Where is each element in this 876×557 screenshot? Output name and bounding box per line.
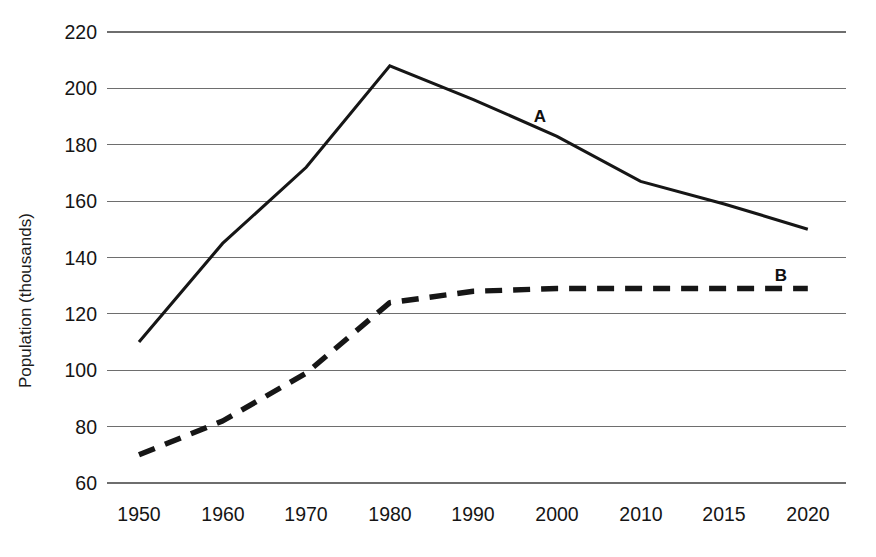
y-tick-label-60: 60	[75, 472, 97, 494]
y-tick-label-220: 220	[64, 21, 97, 43]
x-tick-label-2020: 2020	[786, 503, 830, 525]
series-b-label: B	[775, 266, 787, 285]
series-a-label: A	[534, 107, 546, 126]
x-tick-label-1990: 1990	[451, 503, 495, 525]
chart-canvas: 220 200 180 160 140 120 100 80 60 1950 1…	[0, 0, 876, 557]
series-line-a	[139, 66, 808, 342]
x-tick-label-2010: 2010	[619, 503, 663, 525]
y-axis-title-group: Population (thousands)	[16, 213, 35, 388]
y-tick-label-80: 80	[75, 416, 97, 438]
y-tick-label-140: 140	[64, 247, 97, 269]
y-tick-label-120: 120	[64, 303, 97, 325]
y-axis-tick-labels: 220 200 180 160 140 120 100 80 60	[64, 21, 97, 494]
x-tick-label-1950: 1950	[117, 503, 161, 525]
x-tick-label-2015: 2015	[702, 503, 746, 525]
y-tick-label-160: 160	[64, 190, 97, 212]
y-tick-label-180: 180	[64, 134, 97, 156]
x-tick-label-2000: 2000	[535, 503, 579, 525]
x-tick-label-1980: 1980	[368, 503, 412, 525]
population-line-chart: 220 200 180 160 140 120 100 80 60 1950 1…	[0, 0, 876, 557]
x-tick-label-1960: 1960	[201, 503, 245, 525]
y-tick-label-100: 100	[64, 359, 97, 381]
y-tick-label-200: 200	[64, 77, 97, 99]
x-tick-label-1970: 1970	[284, 503, 328, 525]
y-axis-title: Population (thousands)	[16, 213, 35, 388]
x-axis-tick-labels: 1950 1960 1970 1980 1990 2000 2010 2015 …	[117, 503, 830, 525]
